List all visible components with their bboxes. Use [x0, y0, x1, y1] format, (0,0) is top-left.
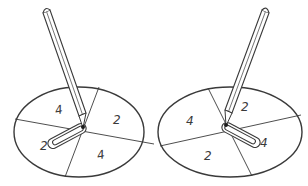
- section-label: 2: [204, 149, 212, 163]
- section-label: 2: [241, 100, 249, 114]
- section-label: 2: [113, 113, 121, 127]
- spinner-right: 4 2 4 2: [158, 8, 302, 177]
- spinners-figure: 4 2 4 2 4 2 4 2: [0, 0, 308, 186]
- section-label: 4: [260, 136, 268, 150]
- section-label: 4: [186, 114, 194, 128]
- section-label: 2: [40, 139, 48, 153]
- spinner-left: 4 2 4 2: [14, 9, 154, 177]
